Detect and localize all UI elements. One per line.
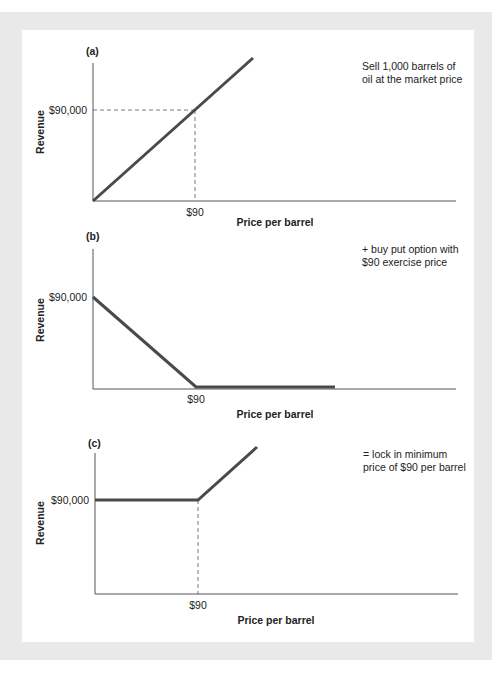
chart-c-note-line1: = lock in minimum	[363, 448, 448, 460]
chart-a-revenue-line	[93, 58, 253, 201]
chart-c-note-line2: price of $90 per barrel	[363, 461, 466, 473]
chart-b-ylabel: Revenue	[34, 298, 46, 342]
chart-c-xtick: $90	[189, 599, 207, 611]
chart-b-ytick: $90,000	[49, 291, 87, 303]
chart-b: (b) $90,000 $90 Price per barrel Revenue…	[34, 230, 459, 420]
chart-b-put-payoff-line	[93, 297, 335, 387]
chart-c-xlabel: Price per barrel	[237, 614, 314, 626]
chart-b-note-line2: $90 exercise price	[362, 256, 447, 268]
chart-a-note-line2: oil at the market price	[362, 73, 463, 85]
figure-svg: (a) $90,000 $90 Price per barrel Revenue…	[0, 0, 498, 673]
chart-a-ylabel: Revenue	[34, 110, 46, 154]
chart-a-note-line1: Sell 1,000 barrels of	[362, 60, 455, 72]
chart-a-label: (a)	[86, 45, 99, 57]
chart-a-ytick: $90,000	[49, 104, 87, 116]
chart-a: (a) $90,000 $90 Price per barrel Revenue…	[34, 45, 463, 228]
chart-b-note-line1: + buy put option with	[362, 243, 459, 255]
chart-b-label: (b)	[86, 230, 99, 242]
chart-c-combined-line	[95, 447, 257, 500]
chart-c: (c) $90,000 $90 Price per barrel Revenue…	[34, 437, 466, 626]
chart-a-xtick: $90	[186, 206, 204, 218]
chart-c-ylabel: Revenue	[34, 501, 46, 545]
chart-c-label: (c)	[88, 437, 101, 449]
chart-a-xlabel: Price per barrel	[236, 216, 313, 228]
chart-b-xtick: $90	[187, 393, 205, 405]
chart-b-xlabel: Price per barrel	[236, 408, 313, 420]
chart-c-ytick: $90,000	[51, 494, 89, 506]
